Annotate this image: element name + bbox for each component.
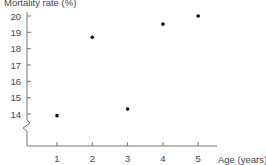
data-point bbox=[196, 14, 200, 18]
y-tick-label: 17 bbox=[10, 60, 21, 71]
y-tick-label: 14 bbox=[10, 109, 21, 120]
y-tick-label: 20 bbox=[10, 11, 21, 22]
x-axis: 12345 bbox=[27, 142, 217, 164]
data-points bbox=[55, 14, 200, 117]
x-tick-label: 4 bbox=[160, 153, 165, 164]
y-tick-label: 19 bbox=[10, 27, 21, 38]
x-tick-label: 3 bbox=[125, 153, 130, 164]
data-point bbox=[126, 107, 130, 111]
x-tick-label: 2 bbox=[90, 153, 95, 164]
x-tick-label: 5 bbox=[196, 153, 201, 164]
y-tick-label: 18 bbox=[10, 43, 21, 54]
data-point bbox=[55, 114, 59, 118]
x-tick-label: 1 bbox=[54, 153, 59, 164]
scatter-chart: Mortality rate (%) 14151617181920 12345 … bbox=[0, 0, 266, 165]
y-tick-label: 16 bbox=[10, 76, 21, 87]
data-point bbox=[161, 22, 165, 26]
y-tick-label: 15 bbox=[10, 92, 21, 103]
y-axis: 14151617181920 bbox=[10, 11, 31, 147]
data-point bbox=[91, 35, 95, 39]
x-axis-title: Age (years) bbox=[218, 154, 266, 165]
y-axis-title: Mortality rate (%) bbox=[4, 0, 76, 8]
